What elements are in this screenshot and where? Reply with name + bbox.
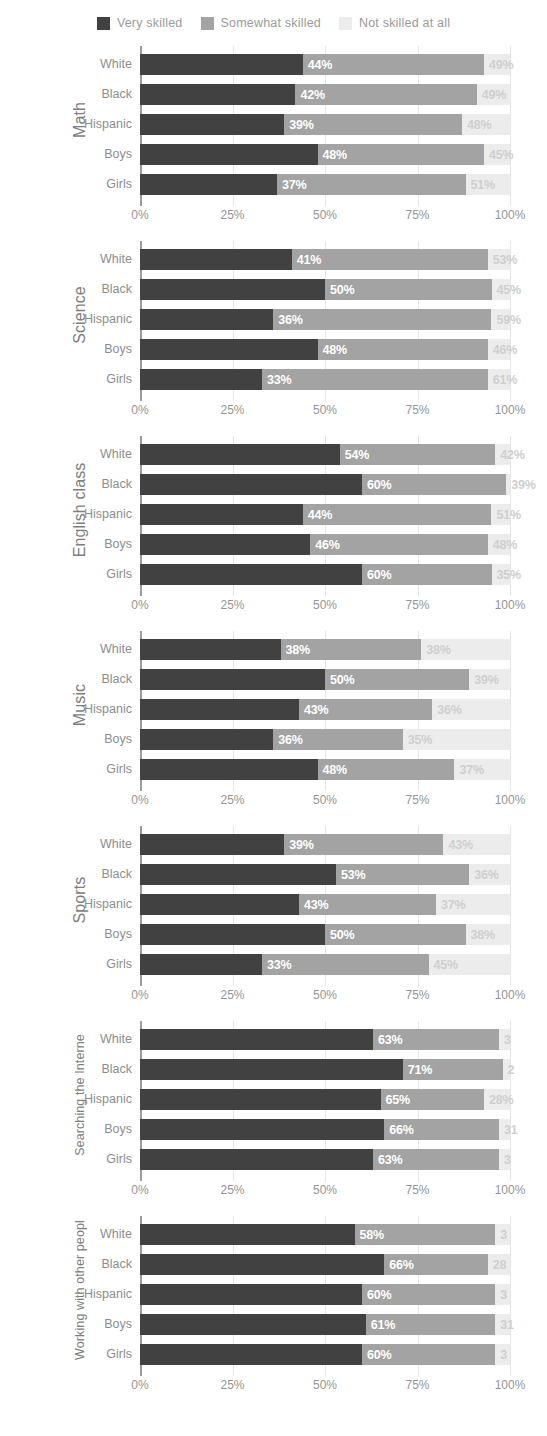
- bar-row: Girls37%51%: [140, 174, 510, 195]
- bar-segment: 38%: [466, 924, 510, 945]
- chart-panel: Working with other peoplWhite58%3Black66…: [0, 1210, 547, 1416]
- x-axis-tick: 0%: [131, 403, 148, 417]
- bar-segment: 43%: [299, 894, 436, 915]
- bar-row-label: Black: [101, 1059, 132, 1080]
- x-axis-tick: 50%: [313, 1378, 337, 1392]
- bar-value-label: 42%: [295, 88, 324, 102]
- bar-value-label: 46%: [310, 538, 339, 552]
- bar-value-label: 36%: [469, 868, 498, 882]
- legend-item: Very skilled: [97, 16, 183, 30]
- bar-row-label: White: [100, 54, 132, 75]
- bar-row: Hispanic39%48%: [140, 114, 510, 135]
- bar-segment: [140, 279, 325, 300]
- x-axis-tick: 50%: [313, 988, 337, 1002]
- bar-segment: 43%: [443, 834, 510, 855]
- bar-segment: 48%: [318, 339, 488, 360]
- bar-segment: [140, 339, 318, 360]
- bar-row-label: Girls: [106, 759, 132, 780]
- bar-segment: [140, 954, 262, 975]
- bar-value-label: 31: [499, 1123, 518, 1137]
- plot-area: White54%42%Black60%39%Hispanic44%51%Boys…: [140, 440, 510, 590]
- bar-segment: 37%: [277, 174, 466, 195]
- bar-value-label: 45%: [429, 958, 458, 972]
- bar-segment: 36%: [273, 309, 491, 330]
- x-axis-tick: 75%: [405, 403, 429, 417]
- plot-area: White63%3Black71%2Hispanic65%28%Boys66%3…: [140, 1025, 510, 1175]
- bar-value-label: 49%: [484, 58, 513, 72]
- bar-segment: 48%: [462, 114, 510, 135]
- bar-row-label: Hispanic: [84, 504, 132, 525]
- bar-row: Girls60%3: [140, 1344, 510, 1365]
- legend-label: Somewhat skilled: [221, 16, 321, 30]
- bar-value-label: 43%: [443, 838, 472, 852]
- bar-row-label: Hispanic: [84, 1089, 132, 1110]
- bar-segment: [140, 534, 310, 555]
- bar-segment: 45%: [429, 954, 510, 975]
- bar-segment: [140, 1224, 355, 1245]
- bar-row-label: Boys: [104, 729, 132, 750]
- bar-value-label: 3: [495, 1228, 507, 1242]
- bar-row-label: Girls: [106, 1344, 132, 1365]
- bar-row-label: Girls: [106, 564, 132, 585]
- bar-row: Black50%39%: [140, 669, 510, 690]
- x-axis: 0%25%50%75%100%: [140, 793, 510, 815]
- bar-value-label: 60%: [362, 1288, 391, 1302]
- bar-segment: 31: [495, 1314, 510, 1335]
- bar-segment: 38%: [421, 639, 510, 660]
- bar-row: Hispanic60%3: [140, 1284, 510, 1305]
- x-axis-tick: 25%: [220, 988, 244, 1002]
- bar-segment: 33%: [262, 369, 488, 390]
- bar-value-label: 33%: [262, 373, 291, 387]
- x-axis-tick: 100%: [495, 208, 526, 222]
- bar-segment: 59%: [491, 309, 510, 330]
- bar-segment: 49%: [477, 84, 510, 105]
- bar-value-label: 35%: [403, 733, 432, 747]
- x-axis-tick: 0%: [131, 1378, 148, 1392]
- bar-value-label: 60%: [362, 568, 391, 582]
- bar-value-label: 28: [488, 1258, 507, 1272]
- bar-value-label: 31: [495, 1318, 514, 1332]
- bar-value-label: 3: [499, 1153, 511, 1167]
- x-axis: 0%25%50%75%100%: [140, 1183, 510, 1205]
- bar-value-label: 39%: [506, 478, 535, 492]
- bar-segment: 36%: [469, 864, 510, 885]
- chart-panel: Searching the InterneWhite63%3Black71%2H…: [0, 1015, 547, 1210]
- bar-value-label: 51%: [466, 178, 495, 192]
- bar-value-label: 50%: [325, 673, 354, 687]
- bar-row: Black66%28: [140, 1254, 510, 1275]
- bar-value-label: 36%: [273, 313, 302, 327]
- bar-segment: [140, 759, 318, 780]
- bar-segment: [140, 174, 277, 195]
- x-axis: 0%25%50%75%100%: [140, 403, 510, 425]
- bar-segment: [140, 1314, 366, 1335]
- x-axis-tick: 25%: [220, 598, 244, 612]
- plot-area: White39%43%Black53%36%Hispanic43%37%Boys…: [140, 830, 510, 980]
- bar-value-label: 43%: [299, 898, 328, 912]
- bar-segment: [140, 699, 299, 720]
- bar-value-label: 61%: [488, 373, 517, 387]
- bar-rows: White41%53%Black50%45%Hispanic36%59%Boys…: [140, 245, 510, 395]
- bar-row: Boys66%31: [140, 1119, 510, 1140]
- bar-segment: [140, 54, 303, 75]
- bar-value-label: 66%: [384, 1258, 413, 1272]
- bar-value-label: 58%: [355, 1228, 384, 1242]
- bar-row-label: White: [100, 1029, 132, 1050]
- x-axis-tick: 100%: [495, 1183, 526, 1197]
- chart-panel: MathWhite44%49%Black42%49%Hispanic39%48%…: [0, 40, 547, 235]
- bar-value-label: 36%: [273, 733, 302, 747]
- chart-legend: Very skilledSomewhat skilledNot skilled …: [0, 0, 547, 40]
- x-axis: 0%25%50%75%100%: [140, 598, 510, 620]
- bar-segment: 37%: [454, 759, 510, 780]
- x-axis-tick: 25%: [220, 403, 244, 417]
- bar-segment: 48%: [318, 759, 455, 780]
- bar-value-label: 45%: [492, 283, 521, 297]
- bar-segment: 60%: [362, 1284, 495, 1305]
- bar-segment: 2: [503, 1059, 510, 1080]
- bar-value-label: 39%: [284, 838, 313, 852]
- bar-value-label: 3: [495, 1288, 507, 1302]
- x-axis-tick: 25%: [220, 793, 244, 807]
- bar-value-label: 63%: [373, 1033, 402, 1047]
- bar-row: Black60%39%: [140, 474, 510, 495]
- x-axis-tick: 75%: [405, 988, 429, 1002]
- legend-item: Not skilled at all: [339, 16, 450, 30]
